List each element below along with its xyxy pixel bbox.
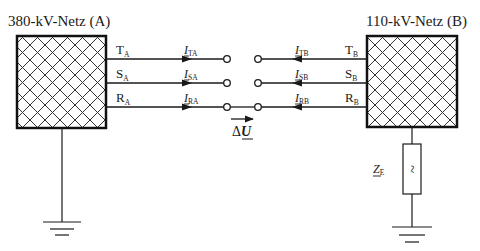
switch-terminals (224, 56, 262, 111)
svg-text:RA: RA (116, 90, 131, 107)
current-labels-b: ITB ISB IRB (294, 43, 309, 106)
svg-text:RB: RB (345, 90, 359, 107)
tilde-icon: ~ (404, 165, 420, 173)
network-a-title: 380-kV-Netz (A) (8, 13, 110, 30)
phase-labels-a: TA SA RA (116, 42, 131, 107)
terminal-sa (224, 80, 231, 87)
svg-text:SB: SB (345, 66, 357, 83)
network-b-box (367, 36, 457, 127)
terminal-ta (224, 56, 231, 63)
svg-text:SA: SA (116, 66, 129, 83)
terminal-ra (224, 104, 231, 111)
circuit-diagram: 380-kV-Netz (A) 110-kV-Netz (B) (0, 0, 480, 251)
svg-text:TA: TA (116, 42, 130, 59)
phase-labels-b: TB SB RB (345, 42, 359, 107)
network-b-title: 110-kV-Netz (B) (366, 13, 467, 30)
impedance-label: ZE (373, 162, 385, 177)
terminal-tb (255, 56, 262, 63)
network-a-box (17, 36, 106, 128)
svg-text:ZE: ZE (373, 162, 385, 177)
svg-text:ΔU: ΔU (232, 124, 252, 139)
terminal-rb (255, 104, 262, 111)
voltage-difference: ΔU (231, 119, 253, 139)
ground-icon (392, 227, 432, 242)
ground-b (392, 127, 432, 242)
current-labels-a: ITA ISA IRA (183, 43, 199, 106)
ground-icon (43, 222, 81, 235)
terminal-sb (255, 80, 262, 87)
ground-a (43, 128, 81, 235)
svg-text:TB: TB (345, 42, 358, 59)
